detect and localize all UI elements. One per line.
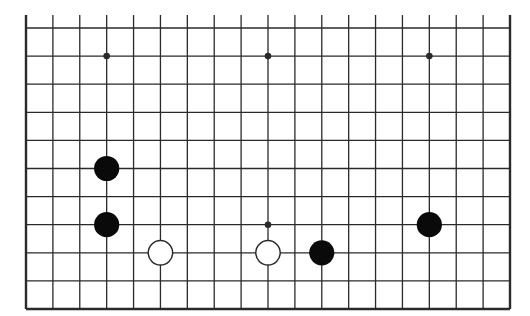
star-point — [426, 53, 433, 60]
black-stone — [94, 212, 119, 237]
star-point — [103, 53, 110, 60]
black-stone — [309, 240, 334, 265]
white-stone — [148, 241, 172, 265]
white-stone — [256, 241, 280, 265]
black-stone — [417, 212, 442, 237]
star-point — [265, 221, 272, 228]
star-point — [265, 53, 272, 60]
go-board — [0, 0, 530, 316]
black-stone — [94, 156, 119, 181]
